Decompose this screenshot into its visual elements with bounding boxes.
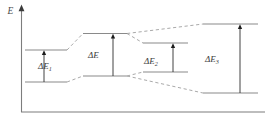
stage-4-group: ΔE3 [203, 24, 258, 93]
delta-e-1-label-main: ΔE [37, 61, 49, 71]
connector-stage2-upper-to-stage3-upper [127, 34, 143, 44]
delta-e-2-label-sub: 2 [155, 60, 158, 67]
delta-e-2-label-main: ΔE [143, 56, 155, 66]
delta-e-2-label: ΔE2 [143, 56, 158, 67]
delta-e-mid-label: ΔE [87, 50, 99, 60]
stage-3-group: ΔE2 [143, 43, 188, 72]
stage2-gap-arrowhead [111, 34, 115, 39]
delta-e-1-label-sub: 1 [49, 65, 52, 72]
y-axis-label: E [7, 6, 14, 16]
connector-stage1-lower-to-stage2-lower [67, 76, 83, 82]
delta-e-3-label: ΔE3 [204, 54, 219, 65]
energy-level-diagram: E ΔE1 ΔE [0, 0, 267, 124]
diagram-canvas: E ΔE1 ΔE [0, 0, 267, 124]
connector-stage2-lower-to-stage4-lower [127, 76, 203, 93]
delta-e-3-label-sub: 3 [215, 58, 219, 65]
axes-group: E [7, 5, 266, 113]
connector-stage1-upper-to-stage2-upper [67, 34, 83, 51]
connector-stage2-upper-to-stage4-upper [127, 24, 203, 34]
stage1-gap-arrowhead [42, 50, 46, 55]
delta-e-3-label-main: ΔE [204, 54, 216, 64]
stage-1-group: ΔE1 [25, 50, 67, 82]
delta-e-1-label: ΔE1 [37, 61, 52, 72]
delta-e-mid-label-main: ΔE [87, 50, 99, 60]
stage4-gap-arrowhead [238, 24, 242, 29]
connector-stage2-lower-to-stage3-lower [127, 72, 143, 76]
stage3-gap-arrowhead [171, 43, 175, 48]
stage-2-group: ΔE [83, 34, 127, 77]
y-axis-arrowhead [19, 5, 25, 12]
